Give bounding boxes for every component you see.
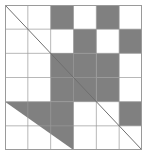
quilt-block-diagram [5,5,142,150]
top-row-dark-1 [51,5,74,29]
figure-canvas [0,0,150,157]
row3-dark-1 [96,53,119,77]
quilt-block-frame [5,5,142,150]
row2-dark-2 [119,29,142,53]
row2-dark-1 [74,29,97,53]
row4-dark-1 [96,78,119,102]
row4-dark-2 [119,102,142,126]
top-row-dark-2 [96,5,119,29]
